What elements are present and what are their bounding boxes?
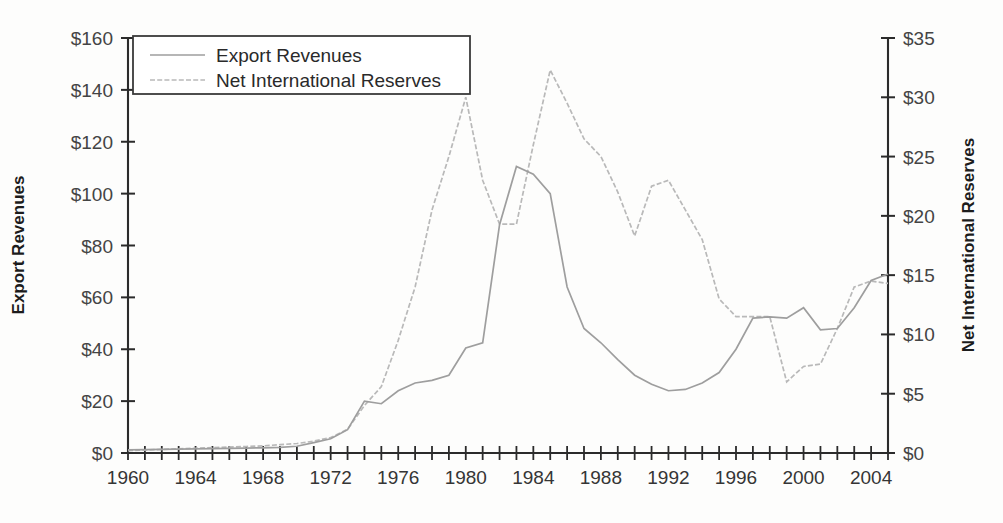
x-tick-label: 1992 <box>647 467 689 488</box>
left-tick-label: $140 <box>71 80 113 101</box>
right-tick-label: $35 <box>903 28 935 49</box>
x-tick-label: 1976 <box>377 467 419 488</box>
right-tick-label: $15 <box>903 265 935 286</box>
x-tick-label: 2004 <box>850 467 893 488</box>
x-tick-label: 1964 <box>174 467 217 488</box>
legend-label-net-international-reserves: Net International Reserves <box>216 70 441 91</box>
right-tick-label: $10 <box>903 324 935 345</box>
chart-legend: Export Revenues Net International Reserv… <box>133 36 470 94</box>
x-tick-label: 1984 <box>512 467 555 488</box>
series-line-export-revenues <box>128 166 888 450</box>
x-tick-label: 1968 <box>242 467 284 488</box>
left-tick-label: $160 <box>71 28 113 49</box>
right-tick-label: $25 <box>903 147 935 168</box>
x-tick-label: 1996 <box>715 467 757 488</box>
left-tick-label: $40 <box>81 339 113 360</box>
left-tick-label: $20 <box>81 391 113 412</box>
x-tick-label: 1980 <box>445 467 487 488</box>
left-tick-label: $100 <box>71 184 113 205</box>
right-axis-title: Net International Reserves <box>959 138 978 352</box>
right-tick-label: $20 <box>903 206 935 227</box>
left-tick-label: $0 <box>92 443 113 464</box>
x-tick-label: 1960 <box>107 467 149 488</box>
left-axis-ticks: $0$20$40$60$80$100$120$140$160 <box>71 28 135 464</box>
chart-canvas: Export Revenues Net International Reserv… <box>0 0 1003 523</box>
right-tick-label: $0 <box>903 443 924 464</box>
x-tick-label: 1988 <box>580 467 622 488</box>
right-axis-ticks: $0$5$10$15$20$25$30$35 <box>881 28 935 464</box>
chart-figure: Export Revenues Net International Reserv… <box>0 0 1003 523</box>
left-tick-label: $120 <box>71 132 113 153</box>
x-tick-label: 2000 <box>782 467 824 488</box>
left-axis-title: Export Revenues <box>9 176 28 315</box>
left-tick-label: $80 <box>81 236 113 257</box>
series-line-net-international-reserves <box>128 70 888 451</box>
left-tick-label: $60 <box>81 287 113 308</box>
right-tick-label: $30 <box>903 87 935 108</box>
right-tick-label: $5 <box>903 384 924 405</box>
legend-label-export-revenues: Export Revenues <box>216 45 362 66</box>
x-tick-label: 1972 <box>310 467 352 488</box>
